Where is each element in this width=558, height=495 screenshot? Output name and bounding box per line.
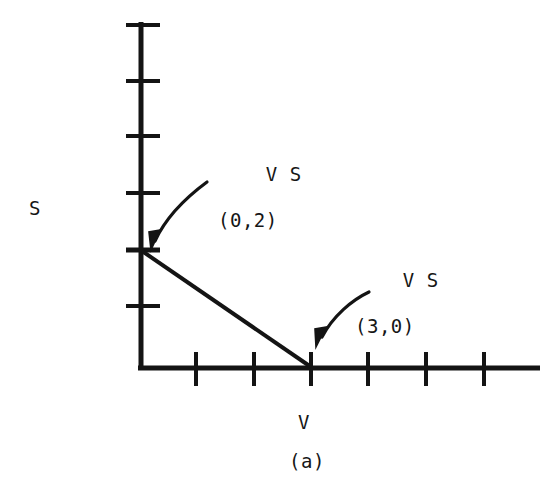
annotation-arrow-0-2-head [149,230,160,250]
annotation-label-3-0: V S (3,0) [355,246,439,384]
annotation-label-0-2: V S (0,2) [218,140,302,278]
annotation-label-0-2-coords: (0,2) [218,209,302,232]
annotation-arrow-0-2-curve [155,182,207,241]
axes-group [126,22,540,386]
annotation-arrow-3-0-head [315,327,326,347]
x-axis-label: V [298,411,310,434]
y-axis-label: S [29,197,41,220]
annotation-label-3-0-header: V S [403,269,439,291]
annotation-label-3-0-coords: (3,0) [355,315,439,338]
subfigure-caption: (a) [289,450,325,473]
figure-container: S V (a) V S (0,2) V S (3,0) [0,0,558,495]
annotation-label-0-2-header: V S [266,163,302,185]
